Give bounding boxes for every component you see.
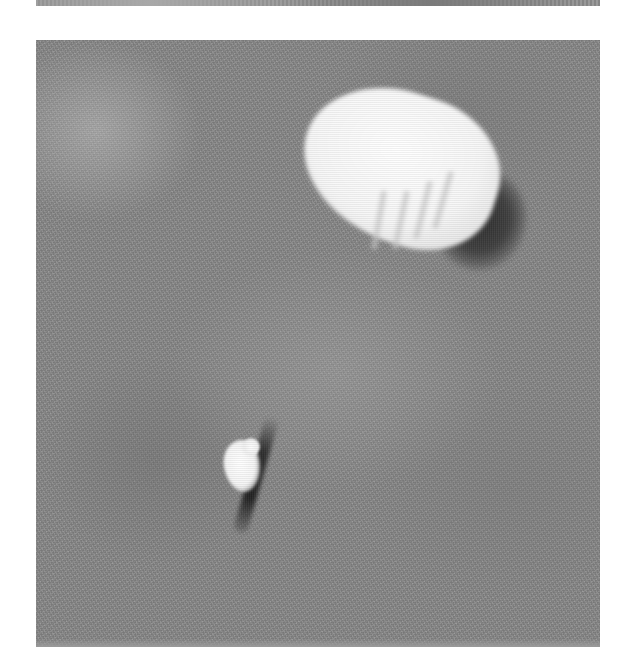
parachutist-head	[242, 438, 260, 456]
bottom-edge-fade	[36, 639, 600, 647]
previous-photo-strip	[36, 0, 600, 6]
parachute-photo	[36, 40, 600, 647]
page: parachute canopy and parachutist seen fr…	[0, 0, 643, 647]
